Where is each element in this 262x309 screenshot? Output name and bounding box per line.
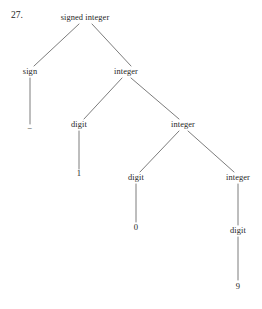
parse-tree-figure: 27. signed integersigninteger−digitinteg… — [0, 0, 262, 309]
tree-edge — [84, 78, 122, 119]
tree-edge — [131, 78, 179, 119]
tree-node: signed integer — [61, 14, 110, 22]
tree-node: integer — [226, 174, 250, 182]
exercise-number-label: 27. — [11, 10, 23, 20]
tree-node: sign — [23, 68, 37, 76]
tree-leaf-node: − — [28, 124, 33, 133]
tree-edge — [34, 24, 79, 66]
tree-node: digit — [128, 174, 144, 182]
tree-leaf-node: 9 — [236, 282, 240, 291]
tree-leaf-node: 0 — [134, 223, 138, 232]
tree-node: integer — [114, 68, 138, 76]
tree-node: integer — [171, 121, 195, 129]
tree-edge — [188, 131, 234, 172]
tree-node: digit — [71, 121, 87, 129]
tree-edge-layer — [0, 0, 262, 309]
tree-edge — [92, 24, 131, 66]
tree-leaf-node: 1 — [77, 169, 81, 178]
tree-node: digit — [230, 227, 246, 235]
tree-edge — [140, 131, 179, 172]
